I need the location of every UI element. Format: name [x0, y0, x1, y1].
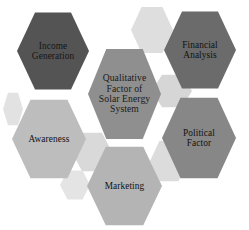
hexagon-awareness[interactable]: Awareness — [12, 98, 86, 180]
decorative-hexagon-left-mid — [3, 92, 23, 126]
hexagon-center-qualitative-factor[interactable]: Qualitative Factor of Solar Energy Syste… — [88, 47, 161, 141]
hexagon-label-financial-analysis: Financial Analysis — [179, 40, 221, 60]
hexagon-label-awareness: Awareness — [26, 134, 73, 144]
hexagon-label-marketing: Marketing — [102, 181, 148, 191]
hexagon-label-income-generation: Income Generation — [29, 41, 77, 61]
hexagon-diagram: Income Generation Financial Analysis Pol… — [0, 0, 249, 230]
hexagon-label-political-factor: Political Factor — [180, 128, 218, 148]
hexagon-income-generation[interactable]: Income Generation — [17, 11, 89, 91]
hexagon-label-center: Qualitative Factor of Solar Energy Syste… — [96, 73, 153, 114]
